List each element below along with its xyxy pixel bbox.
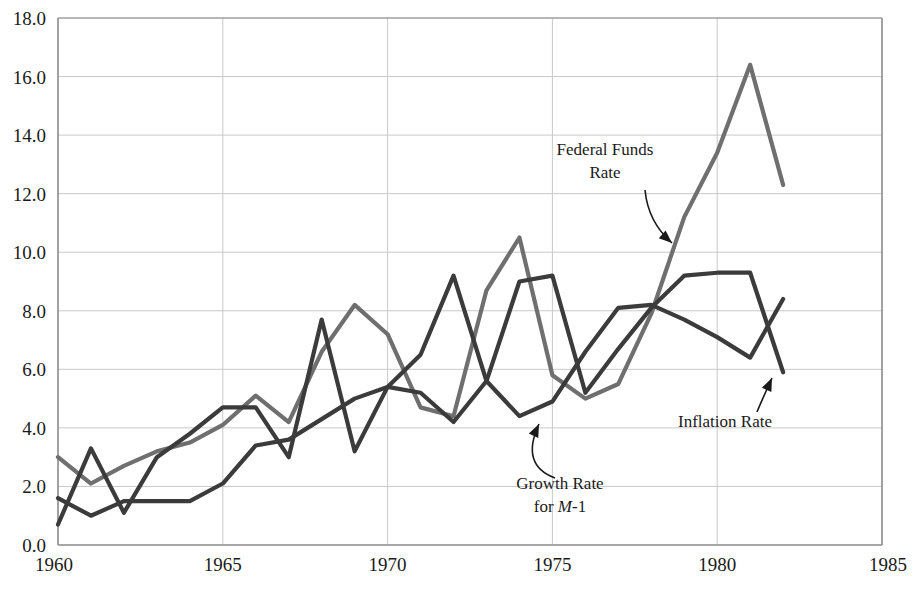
series-line-growth-rate-for-m-1 bbox=[58, 276, 783, 525]
x-tick-label-1985: 1985 bbox=[869, 554, 907, 575]
y-tick-label-10.0: 10.0 bbox=[13, 242, 46, 263]
x-tick-label-1965: 1965 bbox=[204, 554, 242, 575]
annotation-label-federal-funds-rate-line2: Rate bbox=[589, 163, 620, 182]
annotation-label-federal-funds-rate: Federal Funds bbox=[557, 140, 654, 159]
x-tick-label-1975: 1975 bbox=[533, 554, 571, 575]
y-tick-label-0.0: 0.0 bbox=[22, 535, 46, 556]
x-axis-tick-labels: 196019651970197519801985 bbox=[35, 554, 907, 575]
annotation-label-growth-rate-m1: Growth Rate bbox=[516, 474, 603, 493]
y-tick-label-8.0: 8.0 bbox=[22, 301, 46, 322]
y-tick-label-12.0: 12.0 bbox=[13, 184, 46, 205]
series-line-federal-funds-rate bbox=[58, 65, 783, 484]
line-chart: 0.02.04.06.08.010.012.014.016.018.0 1960… bbox=[0, 0, 917, 590]
data-series-lines bbox=[58, 65, 783, 525]
y-tick-label-16.0: 16.0 bbox=[13, 67, 46, 88]
x-tick-label-1960: 1960 bbox=[35, 554, 73, 575]
x-tick-label-1970: 1970 bbox=[369, 554, 407, 575]
annotation-arrowhead-growth-rate-m1 bbox=[529, 424, 539, 438]
y-axis-tick-labels: 0.02.04.06.08.010.012.014.016.018.0 bbox=[13, 8, 46, 556]
chart-container: 0.02.04.06.08.010.012.014.016.018.0 1960… bbox=[0, 0, 917, 590]
annotation-label-growth-rate-m1-line2: for M-1 bbox=[534, 497, 586, 516]
series-line-inflation-rate bbox=[58, 273, 783, 516]
y-tick-label-14.0: 14.0 bbox=[13, 125, 46, 146]
annotation-arrow-federal-funds-rate bbox=[645, 190, 672, 243]
y-tick-label-18.0: 18.0 bbox=[13, 8, 46, 29]
y-tick-label-2.0: 2.0 bbox=[22, 476, 46, 497]
y-tick-label-6.0: 6.0 bbox=[22, 359, 46, 380]
y-tick-label-4.0: 4.0 bbox=[22, 418, 46, 439]
x-tick-label-1980: 1980 bbox=[698, 554, 736, 575]
annotation-label-inflation-rate: Inflation Rate bbox=[678, 412, 772, 431]
annotation-arrowhead-inflation-rate bbox=[762, 378, 772, 392]
